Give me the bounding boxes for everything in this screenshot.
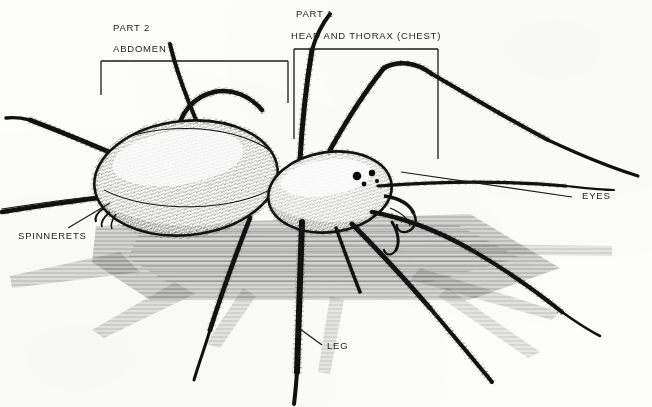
leg-leader [300, 329, 322, 345]
label-spinnerets: SPINNERETS [18, 231, 87, 241]
spinnerets-leader [68, 203, 110, 228]
ground-shadow [10, 214, 612, 374]
label-eyes: EYES [582, 191, 611, 201]
label-part-1: PART 1 [296, 9, 333, 19]
label-leg: LEG [327, 341, 348, 351]
label-abdomen: ABDOMEN [113, 44, 167, 54]
spider-illustration [0, 0, 652, 407]
label-part-2: PART 2 [113, 23, 150, 33]
spider-anatomy-figure: PART 2 ABDOMEN PART 1 HEAD AND THORAX (C… [0, 0, 652, 407]
label-head-and-thorax: HEAD AND THORAX (CHEST) [291, 31, 441, 41]
abdomen-bracket [101, 61, 288, 103]
